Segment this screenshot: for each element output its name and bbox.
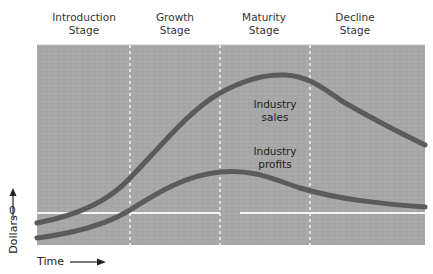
arrow-right-icon — [70, 257, 106, 267]
industry-profits-label: Industry profits — [240, 145, 310, 171]
curve-label-line: profits — [240, 158, 310, 171]
life-cycle-chart — [0, 0, 433, 274]
plot-area — [37, 45, 425, 245]
curve-label-line: sales — [240, 111, 310, 124]
industry-sales-label: Industry sales — [240, 98, 310, 124]
y-axis-label: Dollars — [7, 205, 20, 265]
x-axis: Time — [37, 255, 106, 268]
curve-label-line: Industry — [240, 98, 310, 111]
x-axis-label: Time — [37, 255, 64, 268]
curve-label-line: Industry — [240, 145, 310, 158]
